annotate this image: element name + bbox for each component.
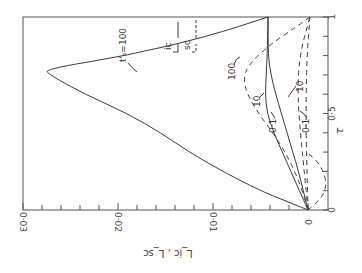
- value-axis-label: L_ic , L_sc: [143, 247, 193, 259]
- value-tick-label: 0: [303, 219, 313, 225]
- legend: ic sc: [163, 20, 196, 52]
- tau-axis-label: τ: [333, 127, 346, 134]
- label-dashed-100: 100: [227, 63, 237, 80]
- legend-sc-line: [192, 20, 196, 52]
- label-t100: t'ₛ=100: [118, 28, 128, 62]
- tau-tick-label: 0·5: [327, 106, 337, 120]
- value-tick-label: 0·03: [18, 212, 28, 232]
- value-tick-label: 0·02: [113, 212, 123, 232]
- curve-l-sc-t-s-100: [244, 17, 309, 210]
- leader-dashed-01: [300, 111, 307, 118]
- plot-frame: [23, 17, 328, 210]
- legend-ic-line: [173, 22, 178, 52]
- legend-sc-label: sc: [182, 40, 192, 50]
- label-dashed-10: 10: [295, 80, 305, 92]
- tau-tick-label: 1: [327, 14, 337, 20]
- tau-tick-label: 0: [327, 207, 337, 213]
- label-dashed-01: 0·1: [301, 119, 311, 133]
- label-solid-01: 0·1: [268, 119, 278, 133]
- curve-l-sc-t-s-0-1: [306, 17, 310, 210]
- leader-solid-01: [271, 112, 275, 118]
- value-tick-label: 0·01: [208, 212, 218, 232]
- legend-ic-label: ic: [163, 42, 173, 50]
- leader-t100: [128, 63, 137, 72]
- axis-ticks: [23, 17, 328, 210]
- leader-dashed-100: [234, 57, 240, 64]
- curve-l-sc-loop: [307, 152, 326, 210]
- chart-canvas: 00·010·020·0300·51 τ L_ic , L_sc t'ₛ=100…: [0, 0, 362, 273]
